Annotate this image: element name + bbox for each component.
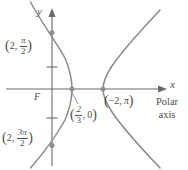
paren-close: ) [27, 39, 32, 53]
point-2-3pi-over-2 [50, 143, 55, 148]
comma: , [12, 133, 17, 143]
angle-fraction: 3π 2 [17, 128, 28, 148]
point-minus2-pi [101, 87, 106, 92]
fraction-denominator: 3 [75, 116, 82, 126]
radius-value: −2 [109, 96, 120, 106]
label-point-2-pi-over-2: ( 2 , π 2 ) [5, 36, 32, 56]
angle-fraction: π 2 [20, 36, 27, 56]
comma: , [15, 41, 20, 51]
paren-close: ) [28, 131, 33, 145]
fraction-denominator: 2 [19, 139, 26, 149]
x-axis-arrowhead [158, 85, 167, 92]
paren-close: ) [129, 94, 134, 108]
fraction-numerator: 3π [17, 128, 28, 138]
y-axis-label: y [37, 6, 42, 17]
polar-conic-figure: y x F Polar axis ( 2 , π 2 ) ( 2 , 3π [0, 0, 188, 170]
fraction-numerator: 2 [75, 105, 82, 115]
polar-axis-line-2: axis [147, 108, 187, 121]
y-axis-arrowhead [48, 8, 55, 17]
x-axis-label: x [170, 79, 175, 90]
conic-left-branch [31, 2, 73, 168]
polar-axis-caption: Polar axis [147, 95, 187, 121]
paren-open: ( [70, 108, 75, 122]
label-point-minus2-pi: ( −2 , π ) [104, 92, 134, 108]
radius-fraction: 2 3 [75, 105, 82, 125]
polar-axis-line-1: Polar [147, 95, 187, 108]
paren-close: ) [92, 108, 97, 122]
label-point-2-3pi-over-2: ( 2 , 3π 2 ) [2, 128, 33, 148]
fraction-denominator: 2 [20, 47, 27, 57]
leader-line-two-thirds [72, 92, 79, 105]
point-two-thirds-zero [70, 87, 75, 92]
focus-label: F [34, 92, 40, 102]
point-2-pi-over-2 [50, 30, 55, 35]
fraction-numerator: π [20, 36, 27, 46]
label-point-two-thirds-zero: ( 2 3 , 0 ) [70, 105, 97, 125]
